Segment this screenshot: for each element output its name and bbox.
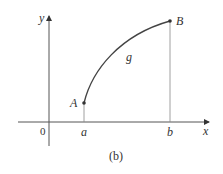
origin-label: 0 <box>40 125 46 137</box>
point-a-label: A <box>69 96 78 110</box>
point-b-label: B <box>176 14 184 28</box>
curve-label: g <box>126 50 132 64</box>
figure-caption: (b) <box>109 149 123 163</box>
tick-label-a: a <box>81 125 87 139</box>
point-b <box>168 19 172 23</box>
diagram-canvas: y x 0 A B a b g (b) <box>0 0 223 174</box>
point-a <box>82 101 86 105</box>
tick-label-b: b <box>167 125 173 139</box>
x-axis-label: x <box>202 124 209 138</box>
y-axis-label: y <box>38 11 45 25</box>
